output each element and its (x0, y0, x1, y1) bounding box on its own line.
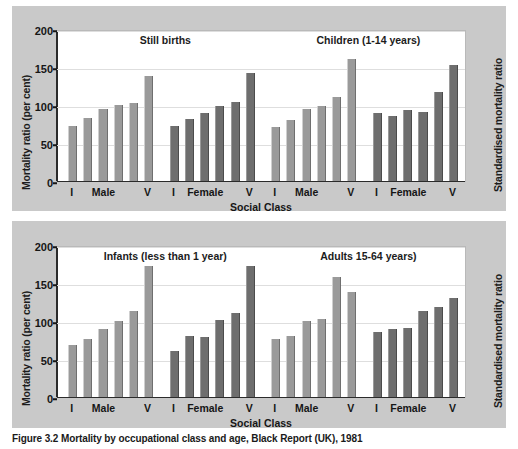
bar-female-IIIM (418, 311, 427, 397)
y-tick-mark (53, 30, 57, 32)
bar-female-II (388, 116, 397, 181)
gridline (57, 69, 465, 70)
bar-female-IIIN (200, 337, 209, 397)
bar-male-IIIN (302, 109, 311, 181)
bar-female-IIIN (200, 113, 209, 181)
y-tick-label: 200 (35, 241, 53, 253)
x-tick-label-group: Male (92, 186, 115, 198)
bar-male-I (68, 126, 77, 181)
bar-female-IIIM (215, 106, 224, 181)
bar-female-IV (231, 313, 240, 397)
x-tick-label-last: V (144, 402, 151, 414)
x-tick-label-first: I (273, 402, 276, 414)
y-tick-mark (53, 284, 57, 286)
x-tick-label-first: I (70, 186, 73, 198)
y-tick-label: 0 (47, 393, 53, 405)
y-axis-label-right-top: Standardised mortality ratio (492, 58, 504, 192)
x-axis-title-top: Social Class (230, 201, 292, 213)
y-tick-mark (53, 398, 57, 400)
x-tick-label-group: Male (92, 402, 115, 414)
x-axis-title-bottom: Social Class (230, 417, 292, 429)
bar-female-II (185, 119, 194, 181)
bar-male-V (347, 59, 356, 181)
bar-female-I (170, 351, 179, 397)
x-tick-label-last: V (347, 402, 354, 414)
gridline (57, 31, 465, 32)
bar-female-IIIN (403, 110, 412, 181)
y-tick-mark (53, 68, 57, 70)
x-tick-label-group: Female (390, 186, 426, 198)
x-tick-label-group: Female (187, 186, 223, 198)
y-tick-label: 200 (35, 25, 53, 37)
bar-female-IV (434, 307, 443, 397)
plot-area-top: 050100150200Still birthsChildren (1-14 y… (56, 30, 466, 182)
y-tick-label: 100 (35, 317, 53, 329)
bar-male-IIIM (114, 105, 123, 181)
x-tick-label-group: Male (295, 186, 318, 198)
bar-male-I (271, 127, 280, 181)
bar-female-V (449, 65, 458, 181)
bar-male-II (286, 120, 295, 181)
subplot-title: Adults 15-64 years) (320, 250, 416, 262)
y-tick-mark (53, 360, 57, 362)
x-tick-label-last: V (449, 186, 456, 198)
x-tick-label-last: V (144, 186, 151, 198)
bar-male-IV (129, 311, 138, 397)
y-tick-label: 50 (41, 355, 53, 367)
y-tick-label: 150 (35, 63, 53, 75)
x-tick-label-first: I (375, 402, 378, 414)
x-tick-label-first: I (172, 402, 175, 414)
bar-male-IV (332, 97, 341, 181)
x-tick-label-group: Male (295, 402, 318, 414)
bar-female-IIIM (215, 320, 224, 397)
bar-female-II (185, 336, 194, 397)
x-tick-label-first: I (70, 402, 73, 414)
y-axis-label-right-bottom: Standardised mortality ratio (492, 274, 504, 408)
x-tick-label-group: Female (187, 402, 223, 414)
bar-female-I (373, 332, 382, 397)
bar-female-II (388, 329, 397, 397)
y-tick-mark (53, 144, 57, 146)
subplot-title: Still births (140, 34, 191, 46)
bar-female-IIIN (403, 328, 412, 397)
gridline (57, 285, 465, 286)
subplot-title: Children (1-14 years) (316, 34, 420, 46)
bar-male-V (347, 292, 356, 397)
x-tick-label-last: V (347, 186, 354, 198)
bar-female-I (373, 113, 382, 181)
x-tick-label-first: I (375, 186, 378, 198)
x-tick-label-last: V (246, 402, 253, 414)
bar-male-II (83, 118, 92, 181)
bar-male-IV (129, 103, 138, 181)
x-tick-label-group: Female (390, 402, 426, 414)
bar-male-IIIN (98, 109, 107, 181)
y-axis-label-left-top: Mortality ratio (per cent) (20, 75, 32, 190)
y-tick-mark (53, 322, 57, 324)
y-tick-label: 0 (47, 177, 53, 189)
gridline (57, 247, 465, 248)
bar-male-IIIN (302, 321, 311, 397)
figure-mortality-by-social-class: Mortality ratio (per cent) Standardised … (0, 0, 518, 449)
y-tick-mark (53, 246, 57, 248)
bar-female-IIIM (418, 112, 427, 181)
x-tick-label-last: V (449, 402, 456, 414)
bar-female-V (246, 73, 255, 181)
y-tick-mark (53, 182, 57, 184)
y-tick-label: 50 (41, 139, 53, 151)
y-tick-label: 100 (35, 101, 53, 113)
bar-male-IIIM (317, 106, 326, 181)
bar-male-V (144, 76, 153, 181)
bar-male-IIIN (98, 329, 107, 397)
bar-male-I (68, 345, 77, 397)
y-tick-label: 150 (35, 279, 53, 291)
bar-male-IIIM (114, 321, 123, 397)
bar-male-IIIM (317, 319, 326, 397)
bar-female-V (246, 266, 255, 397)
x-tick-label-first: I (273, 186, 276, 198)
bar-female-I (170, 126, 179, 181)
subplot-title: Infants (less than 1 year) (104, 250, 227, 262)
plot-area-bottom: 050100150200Infants (less than 1 year)Ad… (56, 246, 466, 398)
bar-male-II (286, 336, 295, 397)
figure-caption: Figure 3.2 Mortality by occupational cla… (12, 433, 506, 447)
x-tick-label-last: V (246, 186, 253, 198)
